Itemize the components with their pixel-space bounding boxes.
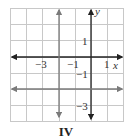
y-axis-label: y [95, 6, 100, 17]
y-tick-label: 1 [82, 36, 88, 47]
x-tick-label: 1 [104, 59, 110, 70]
figure-caption: IV [0, 124, 132, 140]
y-tick-label: −3 [76, 101, 88, 112]
y-tick-label: −1 [76, 69, 88, 80]
x-tick-label: −3 [35, 59, 47, 70]
x-axis-label: x [113, 60, 118, 71]
